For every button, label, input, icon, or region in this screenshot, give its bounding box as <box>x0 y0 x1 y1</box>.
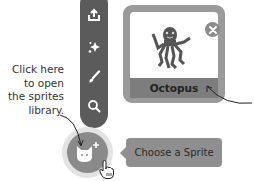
octopus-icon <box>150 24 194 74</box>
sparkle-icon <box>87 40 101 54</box>
close-icon <box>209 26 217 34</box>
tooltip-label: Choose a Sprite <box>134 147 213 158</box>
sprite-thumbnail <box>130 12 218 78</box>
sprite-name: Octopus <box>130 78 218 98</box>
callout-line: library. <box>0 104 64 118</box>
callout-line: Click here <box>0 63 64 77</box>
choose-sprite-tooltip: Choose a Sprite <box>126 138 222 167</box>
sprite-card[interactable]: Octopus <box>123 5 225 103</box>
cat-plus-icon <box>74 140 102 166</box>
delete-sprite-button[interactable] <box>205 22 220 37</box>
paint-button[interactable] <box>80 67 108 87</box>
callout-line: the sprites <box>0 90 64 104</box>
search-sprite-button[interactable] <box>80 96 108 116</box>
upload-icon <box>87 8 101 22</box>
paintbrush-icon <box>87 70 101 84</box>
callout-text: Click here to open the sprites library. <box>0 63 64 117</box>
upload-sprite-button[interactable] <box>80 5 108 25</box>
callout-line: to open <box>0 77 64 91</box>
search-icon <box>87 99 101 113</box>
sprite-name-label: Octopus <box>150 82 199 94</box>
surprise-button[interactable] <box>80 37 108 57</box>
sprite-menu <box>80 0 108 128</box>
hand-cursor-icon <box>99 160 115 180</box>
